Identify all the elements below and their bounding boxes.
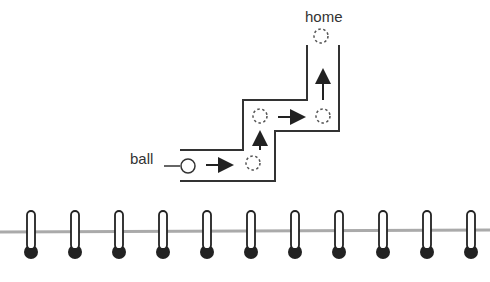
ball-icon bbox=[181, 159, 195, 173]
binding-rings bbox=[24, 211, 478, 259]
binding-ring-icon bbox=[335, 211, 343, 249]
binding-ring-icon bbox=[291, 211, 299, 249]
path-diagram bbox=[0, 0, 490, 282]
binding-ring-icon bbox=[203, 211, 211, 249]
binding-ring-icon bbox=[467, 211, 475, 249]
binding-ring-icon bbox=[115, 211, 123, 249]
home-target-icon bbox=[314, 29, 328, 43]
binding-ring-icon bbox=[27, 211, 35, 249]
arrows bbox=[206, 72, 323, 165]
step-3-icon bbox=[316, 109, 330, 123]
binding-ring-icon bbox=[247, 211, 255, 249]
step-2-icon bbox=[253, 109, 267, 123]
step-1-icon bbox=[246, 156, 260, 170]
binding-ring-icon bbox=[423, 211, 431, 249]
binding-ring-icon bbox=[379, 211, 387, 249]
binding-ring-icon bbox=[71, 211, 79, 249]
binding-ring-icon bbox=[159, 211, 167, 249]
